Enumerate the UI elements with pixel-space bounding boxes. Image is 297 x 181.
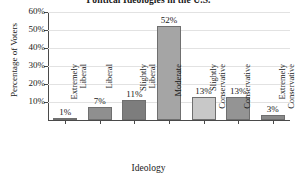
x-category-label: ExtremelyLiberal	[70, 64, 86, 126]
x-tick	[204, 120, 205, 124]
y-tick-label: 30%	[5, 60, 45, 70]
x-category-label: Liberal	[105, 64, 121, 126]
x-category-line: Extremely	[278, 64, 287, 126]
bar-chart: Political Ideologies in the U.S. Percent…	[0, 0, 297, 181]
bar-value-label: 52%	[148, 15, 190, 25]
x-category-line: Slightly	[209, 64, 218, 126]
x-tick	[238, 120, 239, 124]
x-category-label: ExtremelyConservative	[278, 64, 294, 126]
y-tick-label: 50%	[5, 24, 45, 34]
x-category-label: Conservative	[243, 64, 259, 126]
x-axis-title: Ideology	[0, 163, 297, 173]
x-category-line: Conservative	[217, 64, 226, 126]
chart-title: Political Ideologies in the U.S.	[0, 0, 297, 5]
plot-area: 1%7%11%52%13%13%3% ExtremelyLiberalLiber…	[48, 12, 290, 120]
y-tick-label: 20%	[5, 78, 45, 88]
x-tick	[134, 120, 135, 124]
y-tick-label: 10%	[5, 96, 45, 106]
x-tick	[273, 120, 274, 124]
x-tick	[169, 120, 170, 124]
x-category-label: SlightlyConservative	[209, 64, 225, 126]
y-tick-label: 60%	[5, 6, 45, 16]
x-category-line: Conservative	[286, 64, 295, 126]
y-tick-label: 40%	[5, 42, 45, 52]
x-category-label: Moderate	[174, 64, 190, 126]
x-tick	[100, 120, 101, 124]
x-category-label: SlightlyLiberal	[139, 64, 155, 126]
x-category-line: Conservative	[243, 64, 252, 126]
x-category-line: Moderate	[174, 64, 183, 126]
x-category-line: Liberal	[79, 64, 88, 126]
x-category-line: Liberal	[148, 64, 157, 126]
x-category-line: Liberal	[105, 64, 114, 126]
x-tick	[65, 120, 66, 124]
